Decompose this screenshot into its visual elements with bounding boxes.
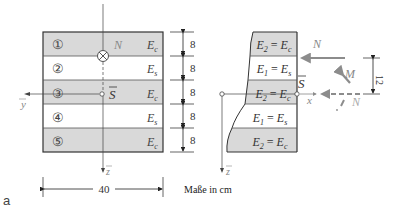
svg-text:8: 8 bbox=[190, 110, 196, 122]
side-view: E2=Ec E1=Es E2=Ec E1=Es E2=Ec S z x N N … bbox=[220, 32, 385, 177]
side-label-5: E2=Ec bbox=[251, 135, 287, 151]
svg-text:8: 8 bbox=[190, 62, 196, 74]
svg-text:8: 8 bbox=[190, 134, 196, 146]
side-centroid-label: S bbox=[298, 76, 305, 91]
layer-number-1: ① bbox=[52, 37, 64, 52]
y-axis-label: y bbox=[20, 98, 26, 110]
side-centroid-marker bbox=[295, 92, 299, 96]
force-label-centroid: N bbox=[351, 95, 361, 109]
moment-label: M bbox=[344, 67, 356, 81]
force-label-n: N bbox=[113, 38, 123, 52]
side-label-2: E1=Es bbox=[256, 62, 292, 78]
composite-section-diagram: ① ② ③ ④ ⑤ Ec Es Ec Es Ec N S y z bbox=[0, 0, 397, 213]
layer-number-2: ② bbox=[52, 61, 64, 76]
side-z-axis-label: z bbox=[225, 166, 230, 177]
width-dimension: 40 bbox=[43, 177, 163, 197]
z-axis-label: z bbox=[105, 166, 110, 177]
side-label-1: E2=Ec bbox=[255, 38, 291, 54]
side-label-3: E2=Ec bbox=[254, 87, 290, 103]
svg-text:8: 8 bbox=[190, 38, 196, 50]
svg-text:8: 8 bbox=[190, 86, 196, 98]
svg-text:40: 40 bbox=[99, 183, 111, 195]
x-axis-label: x bbox=[306, 94, 312, 106]
force-label-top: N bbox=[312, 37, 322, 51]
side-label-4: E1=Es bbox=[252, 111, 288, 127]
layer-number-3: ③ bbox=[52, 86, 64, 101]
centroid-label: S bbox=[109, 87, 116, 102]
panel-label: a bbox=[3, 193, 11, 208]
force-into-page-icon bbox=[98, 51, 109, 62]
svg-text:12: 12 bbox=[374, 75, 385, 85]
cross-section: ① ② ③ ④ ⑤ Ec Es Ec Es Ec N S y z bbox=[19, 4, 196, 197]
layer-number-4: ④ bbox=[52, 110, 64, 125]
units-note: Maße in cm bbox=[184, 184, 232, 195]
centroid-marker bbox=[100, 92, 104, 96]
layer-number-5: ⑤ bbox=[52, 134, 64, 149]
height-dimensions: 8 8 8 8 8 bbox=[170, 32, 196, 152]
eccentricity-dimension: 12 bbox=[363, 58, 385, 94]
